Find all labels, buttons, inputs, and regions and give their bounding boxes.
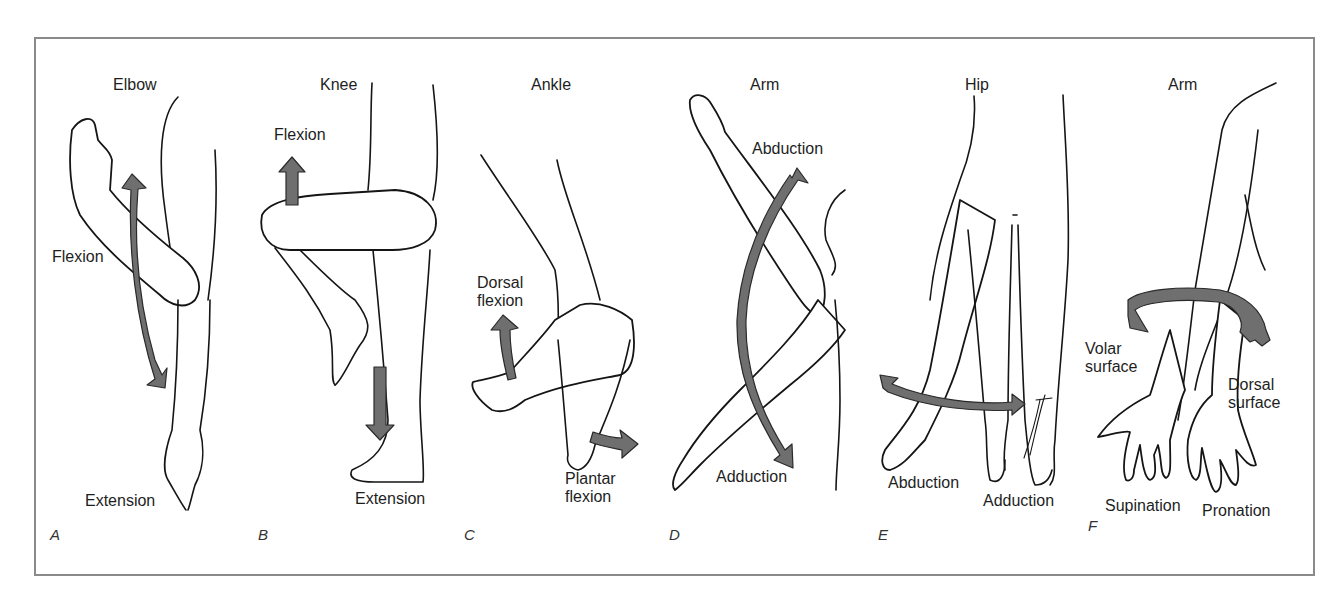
- panel-b-letter: B: [258, 526, 268, 543]
- panel-f-title: Arm: [1168, 76, 1197, 94]
- panel-c-plantar-flexion-label: Plantar flexion: [565, 470, 616, 506]
- panel-d-letter: D: [669, 526, 680, 543]
- panel-b-flexion-label: Flexion: [274, 126, 326, 144]
- panel-d-title: Arm: [750, 76, 779, 94]
- panel-a-extension-label: Extension: [85, 492, 155, 510]
- plantar-flexion-arrow-icon: [590, 430, 638, 458]
- panel-e-adduction-label: Adduction: [983, 492, 1054, 510]
- panel-d-adduction-label: Adduction: [716, 468, 787, 486]
- panel-b-extension-label: Extension: [355, 490, 425, 508]
- panel-f-pronation-label: Pronation: [1202, 502, 1271, 520]
- panel-a-letter: A: [50, 526, 60, 543]
- panel-c-dorsal-flexion-label: Dorsal flexion: [477, 274, 523, 310]
- hip-figure: [882, 95, 1068, 485]
- dorsal-flexion-arrow-icon: [491, 315, 518, 380]
- forearm-rotation-arrow-icon: [1128, 288, 1270, 346]
- panel-e-title: Hip: [965, 76, 989, 94]
- panel-d-abduction-label: Abduction: [752, 140, 823, 158]
- panel-b-title: Knee: [320, 76, 357, 94]
- knee-extension-arrow-icon: [366, 367, 394, 440]
- panel-c-letter: C: [464, 526, 475, 543]
- panel-c-title: Ankle: [531, 76, 571, 94]
- panel-f-supination-label: Supination: [1105, 497, 1181, 515]
- panel-f-letter: F: [1088, 517, 1097, 534]
- elbow-figure: [70, 97, 216, 510]
- panel-e-abduction-label: Abduction: [888, 474, 959, 492]
- panel-f-dorsal-surface-label: Dorsal surface: [1228, 376, 1280, 412]
- panel-e-letter: E: [878, 526, 888, 543]
- ankle-figure: [472, 155, 634, 470]
- panel-a-flexion-label: Flexion: [52, 248, 104, 266]
- panel-a-title: Elbow: [113, 76, 157, 94]
- panel-f-volar-surface-label: Volar surface: [1085, 340, 1137, 376]
- anatomy-illustration: [0, 0, 1344, 606]
